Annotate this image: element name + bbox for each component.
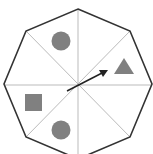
octagon-spinner-diagram — [0, 0, 153, 154]
spinner-arrow[interactable] — [67, 70, 108, 91]
arrow-shaft — [67, 72, 104, 91]
square-shape — [25, 94, 42, 111]
circle-shape-top — [52, 32, 71, 51]
circle-shape-bottom — [52, 121, 71, 140]
triangle-shape — [114, 58, 134, 74]
